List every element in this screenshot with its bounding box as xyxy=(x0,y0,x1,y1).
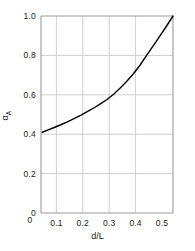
y-axis-title: αA xyxy=(1,111,12,121)
ytick-label: 0.8 xyxy=(6,51,36,60)
ytick-label: 0.4 xyxy=(6,130,36,139)
ytick-label: 1.0 xyxy=(6,12,36,21)
xtick-label: 0.2 xyxy=(77,219,89,228)
ytick-label: 0.6 xyxy=(6,91,36,100)
xtick-label: 0.5 xyxy=(156,219,168,228)
y-axis-title-subscript: A xyxy=(5,111,12,115)
xtick-label: 0 xyxy=(28,216,33,225)
chart-figure: 1.0 0.8 0.6 0.4 0.2 0 0 0.1 0.2 0.3 0.4 … xyxy=(0,0,195,251)
xtick-label: 0.3 xyxy=(103,219,115,228)
ytick-label: 0.2 xyxy=(6,169,36,178)
xtick-label: 0.4 xyxy=(129,219,141,228)
y-axis-title-symbol: α xyxy=(0,115,10,120)
xtick-label: 0.1 xyxy=(50,219,62,228)
x-axis-title: d/L xyxy=(0,232,195,241)
